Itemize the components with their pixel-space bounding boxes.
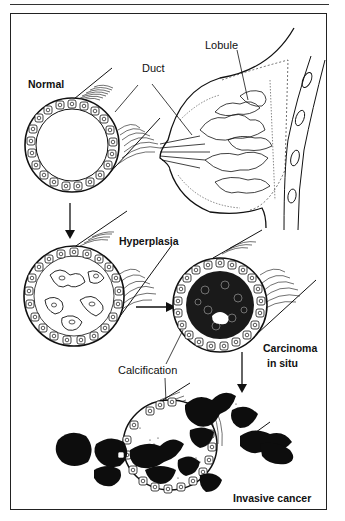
invasive-cancer-illustration [56,383,293,493]
carcinoma-duct-illustration [173,230,316,352]
label-invasive-cancer: Invasive cancer [233,492,311,504]
hyperplasia-duct-illustration [24,211,172,346]
label-carcinoma: Carcinoma [263,342,317,354]
arrow-carcinoma-to-invasive [237,352,247,393]
breast-illustration [160,28,294,228]
arrow-hyperplasia-to-carcinoma [136,302,176,312]
label-lobule: Lobule [205,39,238,51]
label-calcification: Calcification [118,364,177,376]
label-hyperplasia: Hyperplasia [119,235,179,247]
label-normal: Normal [28,78,64,90]
arrow-normal-to-hyperplasia [65,203,75,239]
label-in-situ: in situ [267,357,298,369]
chest-wall-illustration [284,56,325,230]
label-duct: Duct [142,62,165,74]
pointer-lines [115,50,248,135]
